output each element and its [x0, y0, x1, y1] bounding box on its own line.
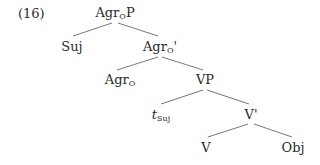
edge-agrobar-vp — [162, 57, 203, 70]
edge-agrop-suj — [73, 23, 112, 36]
node-obj: Obj — [281, 141, 304, 155]
edge-vbar-obj — [254, 124, 292, 137]
edge-agrobar-agro — [117, 57, 158, 70]
tree-edges — [0, 0, 320, 165]
edge-vp-tsuj — [161, 90, 203, 104]
node-vbar: V' — [245, 108, 258, 122]
node-v: V — [201, 141, 210, 155]
example-number: (16) — [18, 6, 45, 21]
edge-agrop-agrobar — [118, 23, 158, 36]
edge-vp-vbar — [207, 90, 249, 104]
node-agro: AgrO — [105, 73, 136, 91]
node-trace-suj: tSuj — [152, 108, 170, 126]
node-agrop: AgrOP — [95, 6, 134, 24]
node-suj: Suj — [61, 40, 82, 54]
node-agrobar: AgrO' — [143, 40, 177, 58]
edge-vbar-v — [208, 124, 248, 137]
node-vp: VP — [196, 73, 214, 87]
